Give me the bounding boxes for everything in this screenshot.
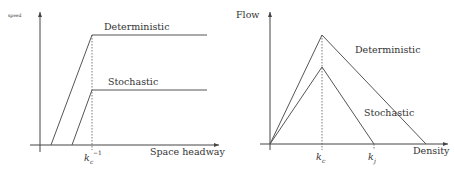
right-y-axis-label: Flow (236, 9, 259, 20)
svg-text:c: c (90, 158, 94, 165)
left-stochastic-label: Stochastic (108, 76, 158, 87)
right-stochastic-label: Stochastic (364, 107, 414, 118)
right-x-axis-label: Density (413, 145, 450, 156)
left-y-axis-label: speed (8, 13, 22, 18)
right-x-tick-kc: k c (316, 151, 326, 164)
left-x-axis-label: Space headway (150, 146, 225, 157)
left-x-tick-kc-inverse: k c −1 (84, 149, 102, 165)
flow-density-chart: Flow Deterministic Stochastic Density k … (236, 9, 450, 165)
svg-text:c: c (322, 157, 326, 164)
fundamental-diagram-figure: speed Deterministic Stochastic Space hea… (0, 0, 455, 170)
speed-headway-chart: speed Deterministic Stochastic Space hea… (8, 12, 225, 165)
left-deterministic-label: Deterministic (104, 21, 169, 32)
right-x-tick-kj: k j (368, 151, 376, 165)
right-deterministic-label: Deterministic (355, 44, 420, 55)
svg-text:−1: −1 (93, 149, 102, 156)
